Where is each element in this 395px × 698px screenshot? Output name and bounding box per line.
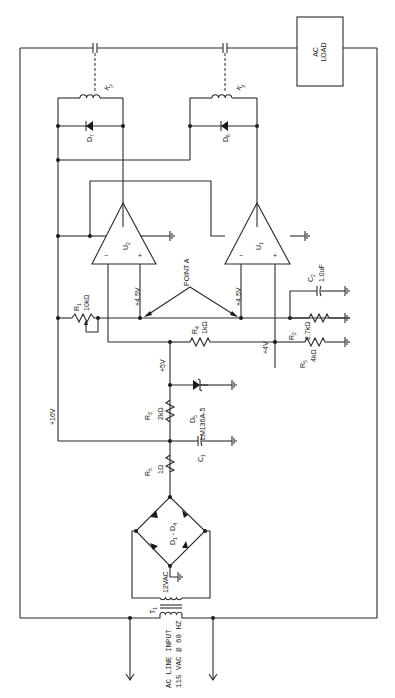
r2-value: 2.7kΩ	[304, 322, 311, 340]
point-a-annotation: POINT A +4.5V +4.5V	[134, 258, 242, 317]
r4-value: 1kΩ	[201, 321, 208, 334]
v4-label: +4V	[262, 341, 269, 354]
r5b-value: 4kΩ	[310, 349, 317, 362]
c2-value: 1.0uF	[318, 264, 325, 282]
d7-label: D7	[86, 134, 95, 142]
resistor-r5-4k: R5 4kΩ	[273, 338, 345, 368]
t1-label: T1	[149, 607, 158, 614]
ac-input-label: AC LINE INPUT 115 VAC @ 60 HZ	[165, 620, 183, 688]
ac-line-wiring	[20, 48, 377, 680]
ac-load-label-1: AC	[312, 47, 319, 57]
relay-contact-k2	[93, 43, 97, 92]
r5b-ref: R5	[299, 360, 308, 368]
bridge-rectifier: D1 - D4	[134, 495, 207, 582]
r2-ref: R2	[288, 332, 297, 340]
bridge-label: D1 - D4	[169, 523, 178, 545]
r4-ref: R4	[191, 326, 200, 334]
relay-contact-k1	[223, 43, 227, 92]
d5-value: LM136A-5	[199, 408, 206, 440]
ac-load-label-2: LOAD	[320, 42, 327, 61]
ground-symbols-right	[345, 286, 349, 347]
u2-plus-voltage: +4.5V	[134, 287, 141, 306]
u2-label: U2	[122, 242, 131, 250]
t1-secondary-value: 12VAC	[162, 571, 169, 593]
r5a-ref: R5	[144, 468, 153, 476]
opamp-u2: − + U2	[90, 203, 174, 264]
zener-d5: D5 LM136A-5	[168, 379, 236, 440]
k2-label: K2	[103, 81, 115, 92]
ac-input-line2: 115 VAC @ 60 HZ	[175, 620, 183, 688]
relay-k1-coil: K1	[190, 81, 257, 98]
transformer-t1: T1 12VAC	[130, 571, 213, 618]
point-a-label: POINT A	[183, 258, 190, 286]
r1-value: 10kΩ	[83, 294, 90, 311]
diode-d6: D6	[190, 121, 257, 142]
capacitor-c2: C2 1.0uF	[290, 264, 345, 318]
c1-ref: C1	[197, 454, 206, 462]
ac-load-box: AC LOAD	[297, 17, 343, 86]
u1-minus-voltage: +4.5V	[235, 287, 242, 306]
c2-ref: C2	[307, 274, 316, 282]
r5a-value: 1Ω	[157, 465, 164, 474]
resistor-r4: R4 1kΩ	[108, 321, 275, 346]
opamp-u1: − + U1	[225, 203, 309, 264]
u1-label: U1	[255, 242, 264, 250]
r3-ref: R3	[144, 412, 153, 420]
u2-plus: +	[138, 252, 142, 259]
v16-label: +16V	[49, 408, 56, 425]
circuit-schematic: AC LOAD K2 D7 K1 D6	[0, 0, 395, 698]
u1-plus: +	[273, 252, 277, 259]
ac-input-line1: AC LINE INPUT	[165, 629, 173, 688]
d5-ref: D5	[189, 415, 198, 423]
r1-ref: R1	[73, 303, 82, 311]
resistor-r2: R2 2.7kΩ	[288, 314, 345, 340]
v5-label: +5V	[159, 359, 166, 372]
relay-k2-coil: K2	[58, 81, 123, 98]
r3-value: 2kΩ	[157, 407, 164, 420]
k1-label: K1	[235, 81, 247, 92]
d6-label: D6	[222, 134, 231, 142]
u1-minus: −	[239, 252, 243, 259]
diode-d7: D7	[58, 121, 123, 142]
u2-minus: −	[104, 252, 108, 259]
